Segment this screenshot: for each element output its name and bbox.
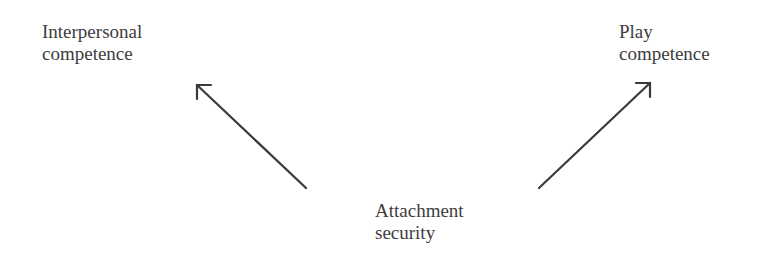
arrow-attachment-to-play [539, 83, 650, 188]
edges-layer [0, 0, 776, 267]
arrow-attachment-to-interpersonal [197, 85, 306, 188]
